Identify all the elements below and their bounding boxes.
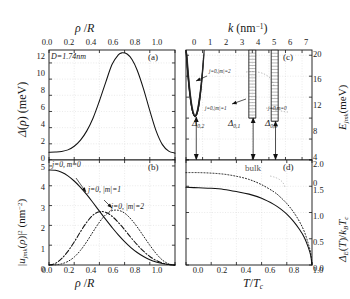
panel-a-xticklabels: 0.00.20.40.60.81.0 — [36, 38, 168, 47]
panel-d-id: (d) — [283, 163, 294, 172]
panel-a-id: (a) — [148, 53, 158, 62]
panel-b-yaxis-title: |ujmk(ρ)|2 (nm−2) — [16, 199, 29, 266]
panel-d-xticklabels: 0.00.20.40.60.81.0 — [186, 266, 330, 275]
panel-d-yaxis-title: ΔE(T)/kBTc — [337, 217, 350, 262]
panel-a-annotation: D=1.74nm — [51, 53, 86, 61]
panel-b-curve-label-0: j=0, m=0 — [52, 161, 81, 169]
panel-c-band-label-0: j=0,|m|=2 — [209, 69, 231, 74]
panel-c-yaxis-title: Ejmk(meV) — [337, 85, 350, 130]
panel-c-band-label-2: j=0,m=0 — [268, 106, 287, 111]
panel-b-curve-label-1: j=0, |m|=1 — [88, 186, 121, 194]
panel-b-curve-label-2: j=0, |m|=2 — [111, 203, 144, 211]
panel-c-xaxis-title: k (nm−1) — [228, 22, 268, 34]
panel-c-xticklabels: 01234567 — [186, 38, 314, 47]
panel-c-gap-label-0: Δ0,2 — [192, 119, 204, 129]
panel-frame-(a) — [49, 50, 175, 160]
panel-b-id: (b) — [148, 163, 159, 172]
panel-d-annotation: bulk — [245, 164, 261, 173]
panel-a-yaxis-title: Δ(ρ) (meV) — [16, 82, 28, 137]
panel-b-xticklabels: 0.00.20.40.60.81.0 — [36, 266, 168, 275]
panel-b-xaxis-title: ρ /R — [75, 277, 94, 289]
panel-c-gap-label-1: Δ0,1 — [228, 119, 240, 129]
panel-a-xaxis-title: ρ /R — [75, 22, 94, 34]
panel-c-gap-label-2: Δ0,0 — [265, 119, 277, 129]
panel-c-band-label-1: j=0,|m|=1 — [205, 106, 227, 111]
panel-c-id: (c) — [283, 53, 293, 62]
panel-d-xaxis-title: T/Tc — [243, 277, 263, 291]
